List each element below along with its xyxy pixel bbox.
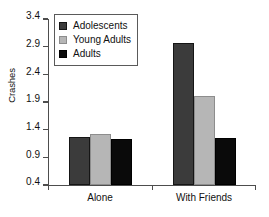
y-axis-tick-label: 2.4 <box>26 67 40 77</box>
y-axis-tick-label: 1.4 <box>26 122 40 132</box>
chart-legend: Adolescents Young Adults Adults <box>54 14 138 66</box>
bar <box>111 139 132 185</box>
y-axis-tick-label: 0.9 <box>26 150 40 160</box>
y-axis-tick: 2.9 <box>43 46 48 47</box>
y-axis-tick: 3.4 <box>43 18 48 19</box>
legend-label: Adolescents <box>73 21 127 31</box>
y-axis-tick-label: 0.4 <box>26 177 40 187</box>
legend-item: Adults <box>59 47 131 61</box>
bar <box>90 134 111 185</box>
legend-label: Adults <box>73 49 101 59</box>
x-axis-group-label: With Friends <box>176 192 232 203</box>
legend-swatch-icon <box>59 50 67 58</box>
bar <box>194 96 215 185</box>
legend-item: Young Adults <box>59 33 131 47</box>
legend-label: Young Adults <box>73 35 131 45</box>
y-axis-tick: 1.9 <box>43 101 48 102</box>
legend-swatch-icon <box>59 36 67 44</box>
bar <box>173 43 194 185</box>
bar-chart-figure: Crashes 0.40.91.41.92.42.93.4 Adolescent… <box>0 0 269 217</box>
y-axis-tick-label: 1.9 <box>26 94 40 104</box>
bar <box>69 137 90 185</box>
legend-swatch-icon <box>59 22 67 30</box>
x-axis-group-label: Alone <box>87 192 113 203</box>
y-axis-tick-label: 3.4 <box>26 11 40 21</box>
y-axis-tick-label: 2.9 <box>26 39 40 49</box>
bar <box>215 138 236 185</box>
y-axis-line <box>48 19 49 185</box>
legend-item: Adolescents <box>59 19 131 33</box>
y-axis-tick: 0.9 <box>43 157 48 158</box>
x-axis-tick <box>48 185 49 190</box>
x-axis-tick <box>255 185 256 190</box>
y-axis-tick: 2.4 <box>43 74 48 75</box>
y-axis-label: Crashes <box>6 51 17 121</box>
x-axis-tick <box>152 185 153 190</box>
y-axis-tick: 1.4 <box>43 129 48 130</box>
